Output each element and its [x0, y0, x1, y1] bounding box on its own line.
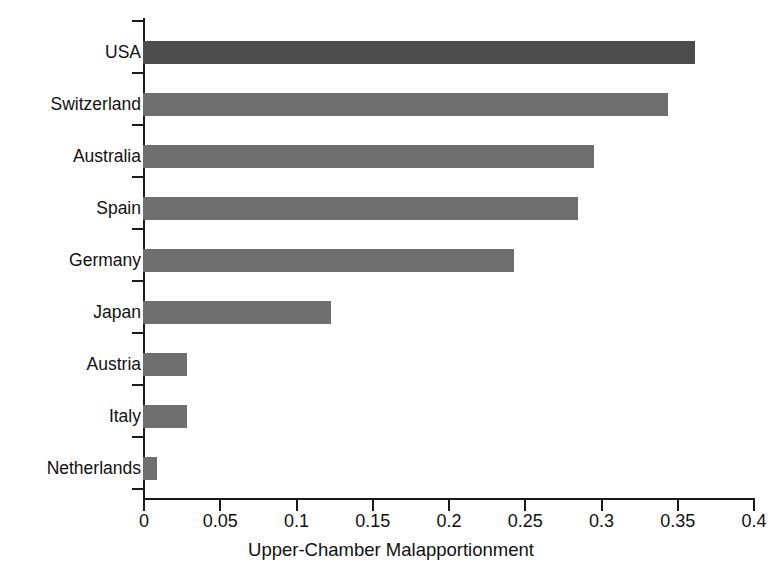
- bar-italy: [143, 405, 187, 428]
- y-axis-label-spain: Spain: [9, 200, 141, 218]
- y-axis-tick: [132, 124, 143, 126]
- x-axis-tick: [601, 500, 603, 511]
- x-axis-tick: [677, 500, 679, 511]
- x-axis-tick: [524, 500, 526, 511]
- y-axis-label-netherlands: Netherlands: [9, 460, 141, 478]
- bar-austria: [143, 353, 187, 376]
- y-axis-tick: [132, 72, 143, 74]
- y-axis-label-austria: Austria: [9, 356, 141, 374]
- y-axis-tick: [132, 488, 143, 490]
- x-axis-tick-label: 0.4: [741, 512, 766, 530]
- y-axis-tick: [132, 332, 143, 334]
- x-axis-tick: [448, 500, 450, 511]
- x-axis-tick-label: 0.3: [589, 512, 614, 530]
- y-axis-tick: [132, 228, 143, 230]
- x-axis-tick: [219, 500, 221, 511]
- y-axis-label-italy: Italy: [9, 408, 141, 426]
- y-axis-tick: [132, 176, 143, 178]
- y-axis-label-usa: USA: [9, 44, 141, 62]
- x-axis-tick: [753, 500, 755, 511]
- x-axis-title: Upper-Chamber Malapportionment: [0, 541, 782, 560]
- x-axis-tick-label: 0.05: [203, 512, 238, 530]
- bar-spain: [143, 197, 578, 220]
- x-axis-tick: [296, 500, 298, 511]
- x-axis-tick: [372, 500, 374, 511]
- y-axis-tick: [132, 436, 143, 438]
- chart-page: USASwitzerlandAustraliaSpainGermanyJapan…: [0, 0, 782, 585]
- y-axis-labels: USASwitzerlandAustraliaSpainGermanyJapan…: [0, 20, 141, 498]
- bar-australia: [143, 145, 594, 168]
- x-axis-tick-label: 0.1: [284, 512, 309, 530]
- y-axis-tick: [132, 384, 143, 386]
- x-axis-tick: [143, 500, 145, 511]
- y-axis-tick: [132, 280, 143, 282]
- bar-switzerland: [143, 93, 668, 116]
- x-axis-tick-label: 0.25: [508, 512, 543, 530]
- y-axis-label-australia: Australia: [9, 148, 141, 166]
- bar-germany: [143, 249, 514, 272]
- bar-usa: [143, 41, 695, 64]
- bar-netherlands: [143, 457, 157, 480]
- plot-area: [143, 20, 753, 498]
- y-axis-tick: [132, 20, 143, 22]
- bar-japan: [143, 301, 331, 324]
- x-axis-tick-label: 0.15: [355, 512, 390, 530]
- x-axis-tick-label: 0: [139, 512, 149, 530]
- y-axis-label-germany: Germany: [9, 252, 141, 270]
- y-axis-label-japan: Japan: [9, 304, 141, 322]
- x-axis-tick-label: 0.2: [436, 512, 461, 530]
- y-axis-label-switzerland: Switzerland: [9, 96, 141, 114]
- x-axis-tick-label: 0.35: [660, 512, 695, 530]
